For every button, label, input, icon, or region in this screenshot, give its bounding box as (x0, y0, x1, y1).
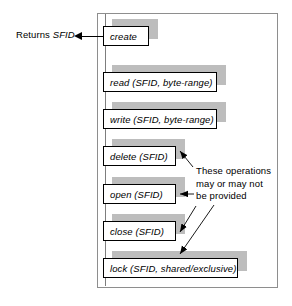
operation-label-write: write (SFID, byte-range) (110, 114, 214, 125)
operation-label-open: open (SFID) (110, 189, 163, 200)
operation-label-lock: lock (SFID, shared/exclusive) (110, 263, 236, 274)
operation-label-delete: delete (SFID) (110, 151, 168, 162)
operation-box-read[interactable]: read (SFID, byte-range) (103, 72, 217, 92)
operations-diagram: create read (SFID, byte-range) write (SF… (0, 0, 292, 306)
annotation-line-1: These operations (196, 165, 271, 178)
operation-label-close: close (SFID) (110, 226, 164, 237)
operations-annotation: These operations may or may not be provi… (196, 165, 271, 203)
operation-box-write[interactable]: write (SFID, byte-range) (103, 109, 217, 129)
annotation-line-2: may or may not (196, 178, 271, 191)
operation-box-delete[interactable]: delete (SFID) (103, 146, 176, 166)
operation-label-read: read (SFID, byte-range) (110, 77, 213, 88)
operation-box-create[interactable]: create (103, 26, 149, 46)
annotation-line-3: be provided (196, 190, 271, 203)
operation-label-create: create (110, 31, 137, 42)
operation-box-lock[interactable]: lock (SFID, shared/exclusive) (103, 258, 238, 278)
operation-box-open[interactable]: open (SFID) (103, 184, 176, 204)
operation-box-close[interactable]: close (SFID) (103, 221, 176, 241)
